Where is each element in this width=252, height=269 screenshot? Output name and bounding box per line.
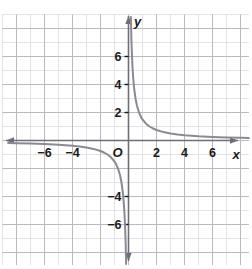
- svg-text:6: 6: [209, 146, 216, 160]
- coordinate-plane: −6−4246642−4−6Oxy: [0, 0, 252, 269]
- svg-text:6: 6: [115, 50, 122, 64]
- svg-text:2: 2: [153, 146, 160, 160]
- svg-text:y: y: [133, 14, 142, 29]
- svg-text:2: 2: [115, 106, 122, 120]
- svg-text:O: O: [112, 145, 122, 160]
- graph-figure: −6−4246642−4−6Oxy: [0, 0, 252, 269]
- svg-text:−4: −4: [107, 190, 121, 204]
- svg-text:−4: −4: [65, 146, 79, 160]
- svg-text:4: 4: [181, 146, 188, 160]
- svg-text:−6: −6: [37, 146, 51, 160]
- svg-text:4: 4: [115, 78, 122, 92]
- page-artifact-mark: [118, 0, 132, 5]
- svg-text:x: x: [231, 147, 240, 162]
- svg-text:−6: −6: [107, 218, 121, 232]
